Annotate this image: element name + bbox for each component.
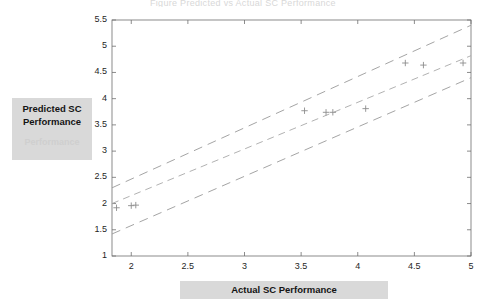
axis-ticks [112,20,471,256]
plot-canvas [0,0,488,303]
x-tick-label: 2 [117,261,145,271]
y-tick-label: 4.5 [79,66,107,76]
y-tick-label: 1.5 [79,224,107,234]
y-tick-label: 5 [79,40,107,50]
x-tick-label: 4 [344,261,372,271]
y-tick-label: 2.5 [79,171,107,181]
y-tick-label: 2 [79,198,107,208]
y-tick-label: 3 [79,145,107,155]
y-tick-label: 5.5 [79,14,107,24]
x-tick-label: 3 [231,261,259,271]
y-tick-label: 4 [79,93,107,103]
x-tick-label: 2.5 [174,261,202,271]
y-tick-label: 1 [79,250,107,260]
y-tick-label: 3.5 [79,119,107,129]
x-tick-label: 3.5 [287,261,315,271]
data-markers [113,60,466,211]
x-tick-label: 5 [457,261,485,271]
axis-box [112,20,471,256]
regression-line [112,56,471,204]
x-tick-label: 4.5 [400,261,428,271]
scatter-plot: 11.522.533.544.555.522.533.544.55 [0,0,488,303]
